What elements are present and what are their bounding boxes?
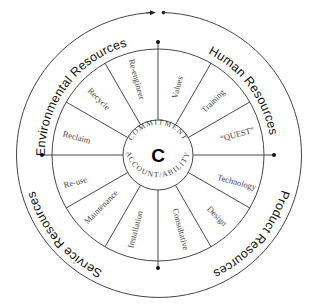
axis-dot-right bbox=[272, 153, 276, 157]
segment-label-quest: “QUEST” bbox=[219, 125, 256, 144]
segment-label-values: Values bbox=[169, 75, 185, 99]
quadrant-label-product: Product Resources bbox=[211, 189, 292, 281]
segment-label-technology: Technology bbox=[216, 172, 258, 192]
segment-label-consultative: Consultative bbox=[171, 207, 192, 251]
segment-label-design: Design bbox=[205, 204, 230, 229]
cycle-start-dot bbox=[162, 11, 166, 15]
segment-label-reclaim: Reclaim bbox=[62, 129, 92, 146]
resource-wheel-diagram: COMMITMENT ACCOUNT/ABILITY C Environment… bbox=[0, 0, 316, 306]
axis-dot-top bbox=[156, 40, 160, 44]
axis-dot-bottom bbox=[156, 266, 160, 270]
segment-label-recycle: Recycle bbox=[86, 86, 113, 113]
segment-label-installation: Installation bbox=[125, 209, 145, 249]
segment-label-reengineer: Re-engineer bbox=[127, 58, 147, 101]
segment-label-reuse: Re-use bbox=[63, 174, 89, 190]
segment-label-maintenance: Maintenance bbox=[82, 188, 120, 226]
center-letter: C bbox=[151, 145, 165, 166]
segment-label-training: Training bbox=[199, 87, 227, 115]
wheel-svg: COMMITMENT ACCOUNT/ABILITY C Environment… bbox=[0, 0, 316, 306]
